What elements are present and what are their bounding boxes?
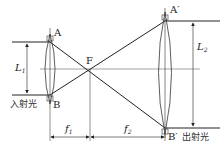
lens-2	[159, 8, 172, 138]
point-Bprime-label: B′	[168, 131, 178, 142]
ray-A-to-Bprime	[50, 42, 165, 128]
ray-B-to-Aprime	[50, 21, 165, 95]
focal-point-F-label: F	[86, 55, 93, 66]
optical-diagram: L1 L2 f1 f2 A B F A′ B′ 入射光 出射光	[0, 0, 224, 143]
f1-label: f1	[64, 123, 73, 135]
f2-label: f2	[123, 123, 132, 135]
L2-label: L2	[196, 41, 208, 53]
incident-light-label: 入射光	[10, 98, 37, 109]
point-B-label: B	[53, 99, 60, 110]
L1-label: L1	[14, 62, 25, 74]
point-Aprime-label: A′	[169, 4, 180, 15]
lens-1	[45, 28, 55, 108]
point-A-label: A	[53, 27, 62, 38]
outgoing-light-label: 出射光	[182, 131, 209, 142]
